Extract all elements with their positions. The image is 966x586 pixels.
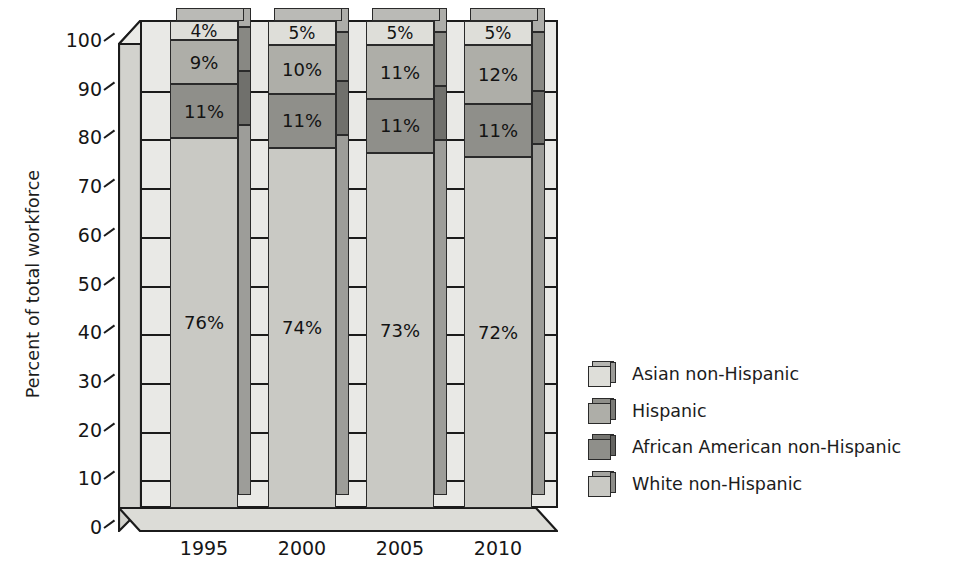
bar-top-face bbox=[372, 8, 440, 21]
legend-label: White non-Hispanic bbox=[632, 474, 802, 494]
bar-segment-side bbox=[238, 71, 251, 125]
y-tick-label: 50 bbox=[46, 273, 102, 295]
y-tick-label: 60 bbox=[46, 224, 102, 246]
bar-segment[interactable]: 11% bbox=[170, 84, 238, 138]
bar-value-label: 72% bbox=[478, 322, 518, 343]
bar-segment[interactable]: 76% bbox=[170, 138, 238, 508]
bar-segment-side bbox=[336, 81, 349, 135]
x-tick-label: 2005 bbox=[350, 537, 450, 559]
bar-segment[interactable]: 74% bbox=[268, 148, 336, 508]
y-tick-label: 100 bbox=[46, 29, 102, 51]
bar-segment-side bbox=[532, 91, 545, 145]
bar-value-label: 5% bbox=[289, 23, 316, 43]
y-tick-mark bbox=[103, 33, 115, 42]
bar-segment[interactable]: 5% bbox=[464, 21, 532, 45]
legend-item[interactable]: African American non-Hispanic bbox=[588, 429, 901, 466]
y-tick-mark bbox=[103, 520, 115, 529]
bar-value-label: 76% bbox=[184, 312, 224, 333]
bar-segment[interactable]: 11% bbox=[366, 99, 434, 153]
bar-value-label: 5% bbox=[485, 23, 512, 43]
x-tick-label: 2000 bbox=[252, 537, 352, 559]
y-tick-mark bbox=[103, 422, 115, 431]
legend-item[interactable]: Asian non-Hispanic bbox=[588, 356, 901, 393]
bar-value-label: 10% bbox=[282, 59, 322, 80]
legend-swatch-front bbox=[588, 439, 611, 460]
bar-stack[interactable]: 72%11%12%5% bbox=[464, 20, 532, 508]
y-tick-mark bbox=[103, 373, 115, 382]
bar-value-label: 73% bbox=[380, 320, 420, 341]
bar-value-label: 11% bbox=[184, 101, 224, 122]
legend-item[interactable]: White non-Hispanic bbox=[588, 466, 901, 503]
x-tick-label: 2010 bbox=[448, 537, 548, 559]
legend-swatch bbox=[588, 361, 616, 387]
bar-value-label: 12% bbox=[478, 64, 518, 85]
legend-label: African American non-Hispanic bbox=[632, 437, 901, 457]
bar-segment[interactable]: 73% bbox=[366, 153, 434, 509]
bar-value-label: 74% bbox=[282, 317, 322, 338]
bar-top-face bbox=[470, 8, 538, 21]
y-axis-ticks: 0102030405060708090100 bbox=[46, 0, 102, 586]
bar-segment[interactable]: 11% bbox=[464, 104, 532, 158]
legend-swatch-front bbox=[588, 403, 611, 424]
legend-swatch-front bbox=[588, 366, 611, 387]
bar-segment[interactable]: 72% bbox=[464, 157, 532, 508]
bar-top-face bbox=[274, 8, 342, 21]
y-tick-mark bbox=[103, 179, 115, 188]
y-tick-mark bbox=[103, 81, 115, 90]
bar-segment[interactable]: 4% bbox=[170, 21, 238, 40]
bar-value-label: 9% bbox=[190, 52, 219, 73]
y-tick-mark bbox=[103, 130, 115, 139]
bar-value-label: 11% bbox=[478, 120, 518, 141]
bar-segment-side bbox=[238, 27, 251, 71]
bar-segment-side bbox=[434, 86, 447, 140]
bar-segment[interactable]: 5% bbox=[268, 21, 336, 45]
bar-segment-side bbox=[434, 32, 447, 86]
y-tick-label: 30 bbox=[46, 370, 102, 392]
bar-segment[interactable]: 5% bbox=[366, 21, 434, 45]
plot-area: 76%11%9%4%74%11%10%5%73%11%11%5%72%11%12… bbox=[118, 20, 558, 532]
legend: Asian non-HispanicHispanicAfrican Americ… bbox=[588, 356, 901, 502]
legend-swatch bbox=[588, 398, 616, 424]
y-tick-mark bbox=[103, 325, 115, 334]
bar-segment[interactable]: 11% bbox=[366, 45, 434, 99]
legend-label: Asian non-Hispanic bbox=[632, 364, 799, 384]
bar-value-label: 5% bbox=[387, 23, 414, 43]
legend-label: Hispanic bbox=[632, 401, 707, 421]
legend-swatch-front bbox=[588, 476, 611, 497]
y-tick-mark bbox=[103, 276, 115, 285]
bar-stack[interactable]: 76%11%9%4% bbox=[170, 20, 238, 508]
y-axis-title: Percent of total workforce bbox=[23, 119, 43, 449]
bar-stack[interactable]: 73%11%11%5% bbox=[366, 20, 434, 508]
bar-segment-side bbox=[532, 144, 545, 495]
bar-segment-side bbox=[336, 32, 349, 81]
legend-swatch bbox=[588, 434, 616, 460]
x-tick-label: 1995 bbox=[154, 537, 254, 559]
bar-top-face bbox=[176, 8, 244, 21]
legend-swatch bbox=[588, 471, 616, 497]
bar-segment-side bbox=[434, 140, 447, 496]
bar-value-label: 11% bbox=[380, 62, 420, 83]
bar-segment-side bbox=[336, 135, 349, 495]
y-tick-label: 10 bbox=[46, 467, 102, 489]
bar-segment[interactable]: 10% bbox=[268, 45, 336, 94]
axis-floor bbox=[118, 506, 558, 532]
legend-item[interactable]: Hispanic bbox=[588, 393, 901, 430]
bar-group: 76%11%9%4%74%11%10%5%73%11%11%5%72%11%12… bbox=[140, 20, 558, 508]
bar-segment-side bbox=[238, 125, 251, 495]
y-tick-label: 40 bbox=[46, 321, 102, 343]
bar-value-label: 11% bbox=[282, 110, 322, 131]
y-tick-label: 0 bbox=[46, 516, 102, 538]
bar-value-label: 4% bbox=[191, 21, 218, 41]
y-tick-label: 90 bbox=[46, 78, 102, 100]
chart-canvas: Percent of total workforce 0102030405060… bbox=[0, 0, 966, 586]
axis-left-wall bbox=[118, 20, 142, 532]
bar-segment-side bbox=[532, 32, 545, 90]
bar-stack[interactable]: 74%11%10%5% bbox=[268, 20, 336, 508]
bar-segment[interactable]: 11% bbox=[268, 94, 336, 148]
y-tick-label: 80 bbox=[46, 126, 102, 148]
y-tick-label: 20 bbox=[46, 419, 102, 441]
y-tick-label: 70 bbox=[46, 175, 102, 197]
y-tick-mark bbox=[103, 471, 115, 480]
bar-segment[interactable]: 9% bbox=[170, 40, 238, 84]
bar-segment[interactable]: 12% bbox=[464, 45, 532, 103]
